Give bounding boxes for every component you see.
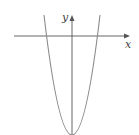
x-axis-label: x <box>125 38 132 51</box>
y-axis-label: y <box>61 11 69 24</box>
parabola-graph: y x <box>0 0 139 135</box>
y-axis-arrow-icon <box>70 15 75 21</box>
